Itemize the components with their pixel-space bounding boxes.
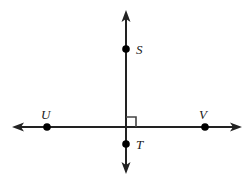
point-label-V: V <box>199 108 207 121</box>
point-dot-T <box>122 140 130 148</box>
geometry-drawing-svg <box>0 0 251 182</box>
point-dot-V <box>201 123 209 131</box>
geometry-figure: S T U V <box>0 0 251 182</box>
point-label-U: U <box>41 108 50 121</box>
point-dot-U <box>43 123 51 131</box>
point-label-S: S <box>136 43 143 56</box>
point-dot-S <box>122 45 130 53</box>
right-angle-marker-icon <box>126 117 136 127</box>
point-label-T: T <box>136 138 143 151</box>
